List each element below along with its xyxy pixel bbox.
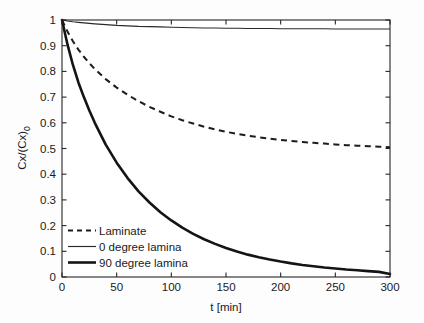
x-axis-title: t [min]: [210, 301, 241, 313]
legend-label-90-degree: 90 degree lamina: [99, 257, 188, 269]
y-tick-label: 0: [50, 271, 56, 283]
y-tick-label: 0.6: [40, 117, 56, 129]
x-tick-label: 250: [326, 281, 345, 293]
y-tick-label: 0.8: [40, 65, 56, 77]
legend-label-laminate: Laminate: [99, 225, 146, 237]
y-axis-title-base: Cx/(Cx): [16, 131, 28, 170]
y-tick-label: 0.2: [40, 220, 56, 232]
x-tick-labels: 050100150200250300: [59, 281, 400, 293]
x-tick-label: 50: [110, 281, 123, 293]
svg-text:Cx/(Cx)0: Cx/(Cx)0: [16, 126, 32, 170]
y-tick-labels: 00.10.20.30.40.50.60.70.80.91: [40, 14, 57, 283]
plot-background: [62, 20, 390, 277]
y-tick-label: 1: [50, 14, 56, 26]
y-tick-label: 0.5: [40, 143, 56, 155]
y-axis-title: Cx/(Cx)0: [16, 126, 32, 170]
y-tick-label: 0.1: [40, 245, 56, 257]
y-tick-label: 0.3: [40, 194, 56, 206]
y-axis-title-subscript: 0: [22, 126, 32, 131]
legend-label-0-degree: 0 degree lamina: [99, 241, 182, 253]
chart-figure: 050100150200250300 00.10.20.30.40.50.60.…: [0, 0, 424, 323]
line-chart: 050100150200250300 00.10.20.30.40.50.60.…: [0, 0, 424, 323]
x-tick-label: 0: [59, 281, 65, 293]
y-tick-label: 0.4: [40, 168, 57, 180]
x-tick-label: 100: [162, 281, 181, 293]
y-tick-label: 0.7: [40, 91, 56, 103]
y-tick-label: 0.9: [40, 40, 56, 52]
x-tick-label: 300: [380, 281, 399, 293]
x-tick-label: 200: [271, 281, 290, 293]
x-tick-label: 150: [216, 281, 235, 293]
